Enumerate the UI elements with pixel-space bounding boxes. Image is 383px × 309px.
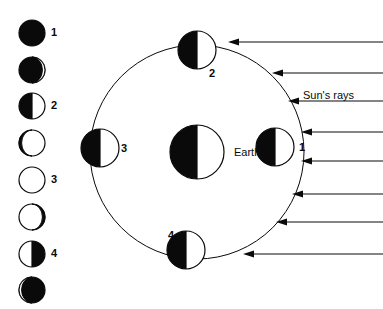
- sun-ray-8-head-icon: [243, 250, 254, 257]
- sun-ray-5-head-icon: [301, 157, 312, 164]
- moon-position-2-label: 2: [209, 68, 215, 79]
- phase-disc-3: [19, 93, 45, 119]
- phase-disc-3-label: 2: [51, 100, 57, 111]
- moon-position-3-label: 3: [121, 143, 127, 154]
- phase-column: [19, 20, 45, 303]
- sun-ray-2-head-icon: [272, 69, 283, 76]
- phase-disc-7: [19, 241, 45, 267]
- phase-disc-5-label: 3: [51, 174, 57, 185]
- sun-ray-6-head-icon: [292, 190, 303, 197]
- phase-disc-2: [19, 57, 45, 83]
- diagram-canvas: [0, 0, 383, 309]
- disc-dark-half: [178, 31, 197, 69]
- moon-position-1-label: 1: [299, 142, 305, 153]
- phase-disc-8: [19, 277, 45, 303]
- sun-ray-1-head-icon: [228, 38, 239, 45]
- sun-ray-7-head-icon: [276, 218, 287, 225]
- sun-ray-2: [272, 69, 383, 76]
- orbit-diagram: [81, 31, 304, 269]
- disc-outline: [19, 167, 45, 193]
- disc-dark-half: [19, 93, 32, 119]
- disc-outline: [19, 20, 45, 46]
- earth-disc: [170, 125, 224, 179]
- moon-position-2: [178, 31, 216, 69]
- phase-disc-7-label: 4: [51, 248, 57, 259]
- sun-ray-4: [301, 128, 383, 135]
- phase-disc-5: [19, 167, 45, 193]
- phase-disc-1-label: 1: [51, 27, 57, 38]
- moon-position-3: [81, 129, 119, 167]
- sun-ray-7: [276, 218, 383, 225]
- phase-disc-4: [19, 130, 45, 156]
- sun-ray-1: [228, 38, 383, 45]
- disc-dark-half: [32, 241, 45, 267]
- phase-disc-6: [19, 204, 45, 230]
- phase-disc-1: [19, 20, 45, 46]
- earth-label: Earth: [234, 147, 260, 158]
- moon-position-4-label: 4: [168, 230, 174, 241]
- sun-rays-label: Sun's rays: [303, 90, 354, 101]
- sun-ray-6: [292, 190, 383, 197]
- sun-ray-5: [301, 157, 383, 164]
- moon-phases-figure: 1234Earth1234Sun's rays: [0, 0, 383, 309]
- disc-dark-half: [81, 129, 100, 167]
- sun-ray-8: [243, 250, 383, 257]
- moon-position-1: [256, 128, 294, 166]
- disc-dark-half: [170, 125, 197, 179]
